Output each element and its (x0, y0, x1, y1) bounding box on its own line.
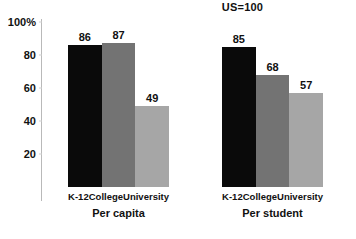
bar-slot: 49 (135, 22, 169, 187)
bar[interactable] (102, 43, 136, 187)
category-labels: K-12CollegeUniversity (222, 191, 323, 202)
bar-value-label: 49 (135, 92, 169, 104)
group-caption: Per capita (92, 207, 145, 219)
category-label: University (277, 191, 323, 202)
category-label: College (89, 191, 123, 202)
y-axis-label: 80 (24, 49, 36, 61)
y-axis-label: 60 (24, 82, 36, 94)
bar-group: 856857K-12CollegeUniversityPer student (222, 22, 323, 187)
bar-value-label: 85 (222, 33, 256, 45)
plot-area: 100%80604020 868749K-12CollegeUniversity… (41, 22, 351, 187)
y-axis-tick (39, 22, 42, 23)
bar[interactable] (256, 75, 290, 187)
y-axis-label: 20 (24, 148, 36, 160)
bar-slot: 86 (68, 22, 102, 187)
bar-slot: 87 (102, 22, 136, 187)
y-axis-line (41, 19, 42, 201)
bar-value-label: 86 (68, 31, 102, 43)
bar-chart: US=100 100%80604020 868749K-12CollegeUni… (0, 0, 356, 239)
bar[interactable] (289, 93, 323, 187)
category-label: University (123, 191, 169, 202)
bar-slot: 68 (256, 22, 290, 187)
y-axis-tick (39, 154, 42, 155)
bar-value-label: 87 (102, 29, 136, 41)
category-label: K-12 (222, 191, 243, 202)
bar-value-label: 68 (256, 61, 290, 73)
y-axis-label: 40 (24, 115, 36, 127)
bar[interactable] (135, 106, 169, 187)
bar-value-label: 57 (289, 79, 323, 91)
chart-title: US=100 (180, 1, 305, 13)
y-axis-label: 100% (8, 16, 36, 28)
bar-group: 868749K-12CollegeUniversityPer capita (68, 22, 169, 187)
bar-group-bars: 856857 (222, 22, 323, 187)
bar[interactable] (222, 47, 256, 187)
y-axis-tick (39, 121, 42, 122)
bar-group-bars: 868749 (68, 22, 169, 187)
group-caption: Per student (242, 207, 303, 219)
bar[interactable] (68, 45, 102, 187)
bar-slot: 85 (222, 22, 256, 187)
category-labels: K-12CollegeUniversity (68, 191, 169, 202)
y-axis-tick (39, 88, 42, 89)
category-label: College (243, 191, 277, 202)
y-axis-tick (39, 55, 42, 56)
bar-slot: 57 (289, 22, 323, 187)
category-label: K-12 (68, 191, 89, 202)
